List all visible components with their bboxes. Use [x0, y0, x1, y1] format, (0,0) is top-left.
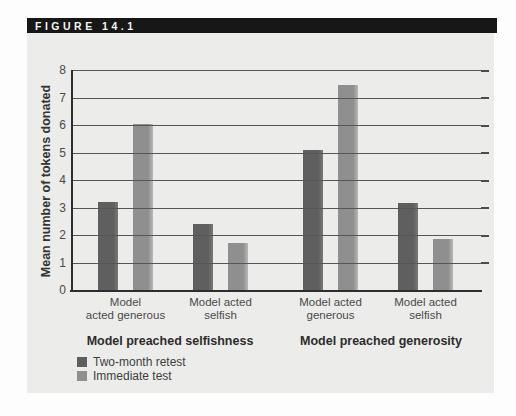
category-label-line: Model	[86, 296, 165, 309]
gridline	[72, 180, 481, 181]
y-tick-label: 5	[40, 145, 66, 161]
legend-item: Immediate test	[77, 370, 172, 382]
right-tick	[481, 125, 489, 127]
gridline	[72, 125, 481, 126]
bar-two-month-retest	[98, 202, 118, 290]
legend-label: Immediate test	[93, 370, 172, 382]
y-tick-label: 6	[40, 117, 66, 133]
y-tick-label: 4	[40, 172, 66, 188]
category-label-line: Model acted	[189, 296, 252, 309]
legend-swatch-two-month-retest	[77, 357, 87, 367]
right-tick	[481, 262, 489, 264]
category-label-line: acted generous	[86, 309, 165, 322]
bar-two-month-retest	[193, 224, 213, 290]
legend-item: Two-month retest	[77, 356, 186, 368]
legend-swatch-immediate-test	[77, 371, 87, 381]
right-tick	[481, 207, 489, 209]
group-condition-label: Model preached selfishness	[87, 334, 254, 348]
gridline	[72, 98, 481, 99]
gridline	[72, 235, 481, 236]
right-tick	[481, 180, 489, 182]
right-tick	[481, 235, 489, 237]
y-tick-label: 1	[40, 255, 66, 271]
figure-header-bar: FIGURE 14.1	[27, 18, 497, 33]
gridline	[72, 208, 481, 209]
right-tick	[481, 70, 489, 72]
bar-two-month-retest	[398, 203, 418, 290]
y-axis-line	[71, 70, 73, 292]
category-label-line: Model acted	[394, 296, 457, 309]
y-tick-label: 8	[40, 62, 66, 78]
gridline	[72, 263, 481, 264]
category-label: Model actedselfish	[394, 296, 457, 322]
category-label-line: selfish	[189, 309, 252, 322]
bar-immediate-test	[228, 243, 248, 290]
bar-immediate-test	[433, 239, 453, 290]
y-tick-label: 7	[40, 90, 66, 106]
category-label-line: selfish	[394, 309, 457, 322]
scanned-textbook-figure: FIGURE 14.1 Mean number of tokens donate…	[0, 0, 516, 416]
category-label: Model actedselfish	[189, 296, 252, 322]
right-tick	[481, 152, 489, 154]
category-label: Modelacted generous	[86, 296, 165, 322]
bar-immediate-test	[338, 85, 358, 290]
y-tick-label: 2	[40, 227, 66, 243]
category-label: Model actedgenerous	[299, 296, 362, 322]
y-tick-label: 3	[40, 200, 66, 216]
category-label-line: generous	[299, 309, 362, 322]
bar-two-month-retest	[303, 150, 323, 290]
right-tick	[481, 97, 489, 99]
group-condition-label: Model preached generosity	[300, 334, 462, 348]
figure-number-label: FIGURE 14.1	[27, 20, 137, 32]
legend-label: Two-month retest	[93, 356, 186, 368]
category-label-line: Model acted	[299, 296, 362, 309]
y-tick-label: 0	[40, 282, 66, 298]
gridline	[72, 153, 481, 154]
gridline	[72, 70, 481, 71]
x-axis-line	[70, 290, 482, 292]
